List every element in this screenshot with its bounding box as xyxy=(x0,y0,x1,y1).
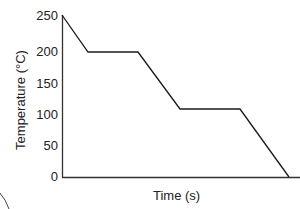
y-tick-150: 150 xyxy=(36,76,58,91)
y-tick-200: 200 xyxy=(36,44,58,59)
cooling-curve-chart: 250 200 150 100 50 0 Temperature (°C) Ti… xyxy=(0,0,300,209)
y-tick-50: 50 xyxy=(44,138,58,153)
corner-arc-decoration xyxy=(0,193,9,209)
y-tick-0: 0 xyxy=(51,169,58,184)
y-tick-250: 250 xyxy=(36,8,58,23)
cooling-curve-line xyxy=(62,15,289,177)
y-axis-label: Temperature (°C) xyxy=(13,50,28,150)
x-axis-label: Time (s) xyxy=(153,188,200,203)
y-tick-100: 100 xyxy=(36,107,58,122)
